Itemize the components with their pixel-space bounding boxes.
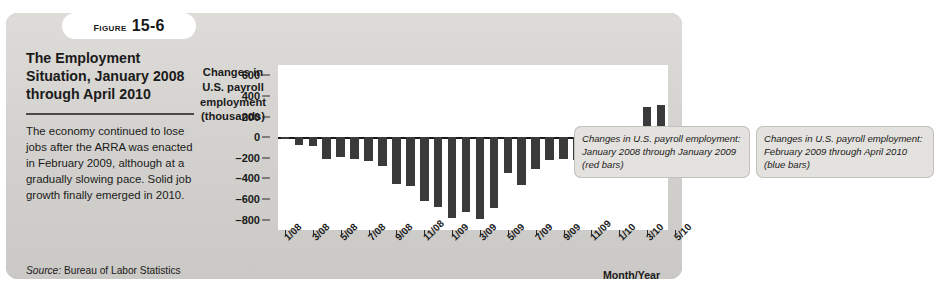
figure-number: 15-6 bbox=[132, 17, 165, 35]
y-tick-mark bbox=[262, 178, 270, 179]
y-tick-mark bbox=[262, 199, 270, 200]
x-axis-title: Month/Year bbox=[603, 269, 660, 281]
bar bbox=[490, 137, 499, 208]
bar bbox=[531, 137, 540, 169]
bar bbox=[504, 137, 513, 173]
bar bbox=[517, 137, 526, 184]
x-tick-label: 5/10 bbox=[672, 221, 694, 243]
source-text: Bureau of Labor Statistics bbox=[64, 265, 181, 276]
bar bbox=[295, 137, 304, 145]
annotation-blue-bars: Changes in U.S. payroll employment: Febr… bbox=[756, 126, 934, 178]
y-tick-label: 200 bbox=[242, 111, 260, 123]
x-axis-labels: 1/083/085/087/089/0811/081/093/095/097/0… bbox=[278, 235, 668, 269]
bar bbox=[350, 137, 359, 159]
bar bbox=[281, 137, 290, 139]
bar bbox=[378, 137, 387, 166]
annotation-red-bars: Changes in U.S. payroll employment: Janu… bbox=[574, 126, 750, 178]
caption-body: The economy continued to lose jobs after… bbox=[26, 123, 194, 204]
bar bbox=[364, 137, 373, 161]
y-tick-mark bbox=[262, 157, 270, 158]
bar bbox=[462, 137, 471, 212]
y-tick-label: –600 bbox=[236, 193, 260, 205]
y-tick-mark bbox=[262, 137, 270, 138]
y-tick-label: –200 bbox=[236, 152, 260, 164]
bar bbox=[434, 137, 443, 207]
bar bbox=[545, 137, 554, 160]
bar bbox=[406, 137, 415, 185]
bar bbox=[322, 137, 331, 159]
bar bbox=[336, 137, 345, 157]
y-tick-mark bbox=[262, 219, 270, 220]
bar bbox=[420, 137, 429, 201]
source-line: Source: Bureau of Labor Statistics bbox=[26, 265, 181, 276]
figure-title: The Employment Situation, January 2008 t… bbox=[26, 49, 194, 104]
y-tick-label: 400 bbox=[242, 90, 260, 102]
bar bbox=[476, 137, 485, 218]
bar bbox=[559, 137, 568, 159]
y-tick-mark bbox=[262, 116, 270, 117]
y-axis-labels: 6004002000–200–400–600–800 bbox=[202, 65, 270, 230]
y-tick-label: –800 bbox=[236, 214, 260, 226]
source-label: Source: bbox=[26, 265, 61, 276]
y-tick-label: 600 bbox=[242, 69, 260, 81]
bar bbox=[392, 137, 401, 183]
y-tick-mark bbox=[262, 75, 270, 76]
bar-chart-plot: Changes in U.S. payroll employment: Janu… bbox=[278, 65, 668, 230]
caption-divider bbox=[26, 113, 194, 115]
figure-tab: Figure 15-6 bbox=[62, 13, 196, 39]
y-tick-label: –400 bbox=[236, 172, 260, 184]
figure-word: Figure bbox=[93, 19, 126, 34]
y-tick-mark bbox=[262, 95, 270, 96]
figure-card: Figure 15-6 The Employment Situation, Ja… bbox=[6, 13, 682, 279]
bar bbox=[448, 137, 457, 217]
bar bbox=[309, 137, 318, 146]
caption-block: The Employment Situation, January 2008 t… bbox=[26, 49, 194, 203]
y-tick-label: 0 bbox=[254, 131, 260, 143]
